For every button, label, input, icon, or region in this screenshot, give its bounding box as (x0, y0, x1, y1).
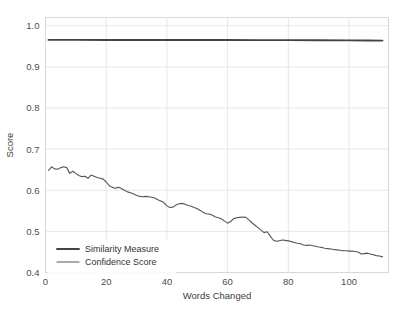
x-tick-label-1: 20 (101, 276, 112, 287)
y-tick-label-0: 0.4 (26, 267, 39, 278)
y-axis-title: Score (4, 133, 15, 158)
x-tick-label-5: 100 (341, 276, 357, 287)
x-tick-label-3: 60 (222, 276, 233, 287)
x-tick-label-2: 40 (162, 276, 173, 287)
y-tick-label-3: 0.7 (26, 144, 39, 155)
line-chart-svg: 0.40.50.60.70.80.91.0020406080100Words C… (0, 0, 401, 310)
legend-label-1: Confidence Score (85, 257, 157, 267)
x-axis-title: Words Changed (183, 290, 251, 301)
x-tick-label-0: 0 (43, 276, 48, 287)
series-line-similarity-measure (49, 40, 383, 41)
y-tick-label-4: 0.8 (26, 102, 39, 113)
y-tick-label-6: 1.0 (26, 20, 39, 31)
chart-figure: 0.40.50.60.70.80.91.0020406080100Words C… (0, 0, 401, 310)
y-tick-label-5: 0.9 (26, 61, 39, 72)
x-tick-label-4: 80 (283, 276, 294, 287)
plot-background (46, 18, 389, 273)
legend-label-0: Similarity Measure (85, 244, 159, 254)
y-tick-label-1: 0.5 (26, 226, 39, 237)
y-tick-label-2: 0.6 (26, 185, 39, 196)
